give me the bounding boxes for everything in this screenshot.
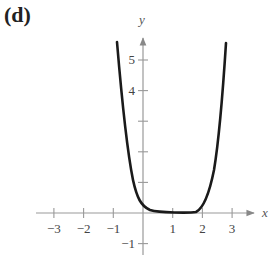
x-tick-label: −1: [106, 221, 120, 236]
x-axis-label: x: [261, 205, 268, 220]
y-tick-label: 5: [129, 52, 136, 67]
chart: −3−2−1123 −145 x y: [0, 0, 278, 260]
x-tick-label: −3: [47, 221, 61, 236]
function-curve: [117, 42, 226, 213]
y-tick-label: 4: [129, 83, 136, 98]
x-ticks: −3−2−1123: [47, 208, 235, 236]
x-tick-label: 1: [169, 221, 176, 236]
y-tick-label: −1: [121, 236, 135, 251]
x-tick-label: 3: [229, 221, 236, 236]
x-tick-label: −2: [77, 221, 91, 236]
y-axis-label: y: [137, 12, 145, 27]
x-tick-label: 2: [199, 221, 206, 236]
y-ticks: −145: [121, 52, 148, 251]
